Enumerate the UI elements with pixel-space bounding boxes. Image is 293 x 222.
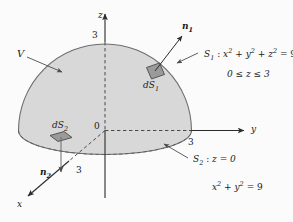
s1-y-exponent: 2 [251, 47, 255, 55]
x-axis-tick-label: 3 [76, 166, 82, 175]
s2-x-exponent: 2 [217, 180, 221, 188]
s1-z-exponent: 2 [273, 47, 277, 55]
ds1-label: dS1 [143, 81, 159, 92]
s2-equation: S2 : z = 0 [193, 155, 236, 166]
n2-subscript: 2 [47, 172, 52, 180]
s1-equals: = [280, 49, 288, 59]
s2-leader-line [164, 144, 188, 158]
y-axis-label: y [251, 125, 256, 134]
s1-range: 0 ≤ z ≤ 3 [227, 70, 270, 79]
ds1-subscript: 1 [155, 85, 159, 93]
ds1-symbol: dS [143, 80, 155, 90]
s2-circle-equation: x2 + y2 = 9 [212, 181, 263, 192]
ds2-symbol: dS [52, 120, 64, 130]
s2-rhs: 9 [257, 182, 263, 192]
s1-x-exponent: 2 [228, 47, 232, 55]
hemisphere-diagram: z 3 y 3 x 3 0 V n1 dS1 n2 dS2 S1 : x2 + … [0, 0, 293, 222]
s2-plane-equation: z = 0 [212, 154, 236, 164]
s2-y-exponent: 2 [240, 180, 244, 188]
n1-normal-arrow [155, 36, 182, 71]
s1-rhs: 9 [290, 49, 293, 59]
s1-equation: S1 : x2 + y2 + z2 = 9 [204, 48, 293, 61]
x-axis-label: x [17, 200, 22, 209]
n1-subscript: 1 [189, 26, 194, 34]
origin-label: 0 [94, 122, 100, 131]
s2-separator: : [206, 154, 209, 164]
s2-plus-1: + [224, 182, 232, 192]
s1-leader-line [177, 53, 198, 63]
s1-separator: : [217, 49, 220, 59]
n2-label: n2 [40, 168, 51, 179]
volume-label: V [17, 49, 24, 59]
y-axis-tick-label: 3 [188, 138, 194, 147]
ds2-subscript: 2 [64, 125, 68, 133]
z-axis-label: z [98, 11, 103, 20]
ds2-label: dS2 [52, 121, 68, 132]
s1-name-subscript: 1 [210, 54, 214, 62]
s1-plus-1: + [235, 49, 243, 59]
s2-name-subscript: 2 [199, 159, 203, 167]
s1-plus-2: + [258, 49, 266, 59]
s2-equals: = [247, 182, 255, 192]
n1-label: n1 [182, 22, 193, 33]
z-axis-tick-label: 3 [92, 31, 98, 40]
